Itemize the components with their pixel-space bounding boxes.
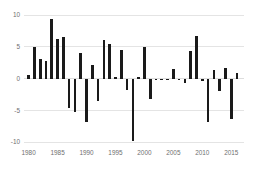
x-axis-tick-labels: 19801985199019952000200520102015 [22, 149, 239, 156]
y-tick-label: 0 [16, 75, 20, 82]
bar [137, 77, 140, 78]
y-axis-tick-labels: 1050-5-10 [11, 11, 21, 145]
bar [103, 40, 106, 78]
bar [85, 79, 88, 122]
bar [160, 79, 163, 81]
x-tick-label: 2010 [195, 149, 210, 156]
bar [114, 77, 117, 79]
bar [91, 65, 94, 79]
bar [201, 79, 204, 82]
bar [97, 79, 100, 102]
plot-area: 1050-5-10 198019851990199520002005201020… [0, 0, 254, 172]
x-tick-label: 2005 [166, 149, 181, 156]
y-tick-label: 5 [16, 43, 20, 50]
bar [172, 69, 175, 79]
bar [108, 44, 111, 78]
bar [195, 36, 198, 79]
bar [45, 61, 48, 78]
bar [236, 73, 239, 79]
bar [189, 51, 192, 78]
bar [79, 53, 82, 78]
bar [143, 47, 146, 78]
bars [27, 19, 238, 141]
bar [213, 70, 216, 79]
x-tick-label: 2000 [137, 149, 152, 156]
bar [62, 37, 65, 79]
bar [155, 79, 158, 80]
bar [120, 50, 123, 79]
y-tick-label: 10 [13, 11, 21, 18]
x-tick-label: 1980 [22, 149, 37, 156]
x-tick-label: 1995 [108, 149, 123, 156]
chart-canvas: 1050-5-10 198019851990199520002005201020… [0, 0, 254, 172]
bar [166, 79, 169, 80]
bar [230, 79, 233, 120]
bar [149, 79, 152, 99]
bar [126, 79, 129, 90]
bar [218, 79, 221, 91]
bar [224, 68, 227, 78]
x-tick-label: 2015 [224, 149, 239, 156]
bar [132, 79, 135, 141]
bar [39, 59, 42, 78]
x-tick-label: 1985 [50, 149, 65, 156]
bar [68, 79, 71, 108]
y-tick-label: -5 [14, 107, 20, 114]
bar [50, 19, 53, 79]
bar [207, 79, 210, 122]
x-tick-label: 1990 [79, 149, 94, 156]
bar [27, 75, 30, 78]
y-tick-label: -10 [11, 138, 21, 145]
bar-chart: 1050-5-10 198019851990199520002005201020… [0, 0, 254, 172]
bar [178, 79, 181, 80]
bar [184, 79, 187, 83]
bar [33, 47, 36, 79]
bar [74, 79, 77, 112]
bar [56, 39, 59, 79]
